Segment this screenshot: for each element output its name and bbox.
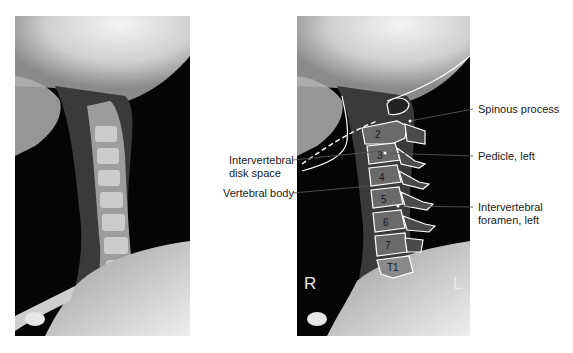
- label-spinous-process: Spinous process: [478, 103, 559, 116]
- xray-image-labeled: 2 3 4 5 6 7 T1 R L: [297, 16, 470, 336]
- vertebra-label-c3: 3: [377, 150, 383, 161]
- vertebra-label-t1: T1: [387, 262, 399, 273]
- label-intervertebral-foramen-left: Intervertebral foramen, left: [478, 201, 543, 227]
- marker-right: R: [304, 274, 316, 294]
- vertebra-label-c7: 7: [385, 240, 391, 251]
- label-pedicle-left: Pedicle, left: [478, 150, 535, 163]
- vertebra-label-c6: 6: [383, 217, 389, 228]
- vertebra-label-c5: 5: [381, 194, 387, 205]
- xray-graphic: [15, 16, 190, 336]
- vertebra-label-c2: 2: [375, 129, 381, 140]
- marker-left: L: [453, 274, 462, 294]
- label-intervertebral-disk-space: Intervertebral disk space: [229, 154, 294, 180]
- xray-traced-graphic: 2 3 4 5 6 7 T1: [297, 16, 470, 336]
- vertebra-label-c4: 4: [379, 172, 385, 183]
- xray-image-unlabeled: [15, 16, 190, 336]
- label-vertebral-body: Vertebral body: [223, 187, 294, 200]
